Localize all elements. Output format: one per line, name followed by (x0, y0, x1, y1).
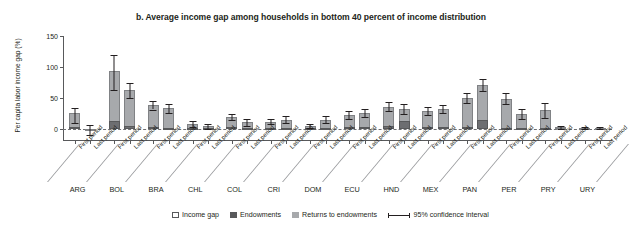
error-bar (404, 104, 405, 114)
error-bar-cap-top (228, 114, 235, 115)
y-tick-label: 150 (46, 33, 58, 40)
error-bar-cap-bottom (424, 115, 431, 116)
error-bar-cap-bottom (111, 90, 118, 91)
bar-group (124, 36, 135, 141)
bar-group (69, 36, 80, 141)
country-bracket (596, 144, 629, 182)
country-bracket (282, 144, 315, 182)
error-bar (325, 116, 326, 123)
country-label: PAN (463, 185, 477, 194)
country-bracket (400, 144, 433, 182)
x-tick-mark (247, 141, 248, 144)
x-tick-mark (310, 141, 311, 144)
country-bracket (518, 144, 551, 182)
error-bar-cap-top (283, 116, 290, 117)
y-tick-mark (60, 67, 63, 68)
country-bracket (47, 144, 80, 182)
x-tick-mark (545, 141, 546, 144)
error-bar-cap-bottom (228, 120, 235, 121)
country-label: CRI (267, 185, 280, 194)
country-label: URY (580, 185, 595, 194)
legend-swatch-endowments (230, 212, 237, 219)
error-bar-cap-top (401, 104, 408, 105)
x-tick-mark (326, 141, 327, 144)
error-bar-cap-bottom (150, 110, 157, 111)
error-bar-cap-top (557, 126, 564, 127)
error-bar-cap-bottom (542, 118, 549, 119)
bar-group (438, 36, 449, 141)
x-tick-mark (286, 141, 287, 144)
country-bracket (243, 144, 276, 182)
x-tick-mark (506, 141, 507, 144)
bar-segment-endowments (69, 127, 80, 129)
bar-group (595, 36, 606, 141)
x-tick-mark (193, 141, 194, 144)
x-tick-mark (428, 141, 429, 144)
country-bracket (125, 144, 158, 182)
legend-item-confidence-interval: 95% confidence interval (388, 211, 489, 219)
error-bar-cap-top (385, 102, 392, 103)
country-label: ECU (344, 185, 359, 194)
error-bar-cap-top (205, 124, 212, 125)
country-bracket (86, 144, 119, 182)
error-bar-cap-top (542, 103, 549, 104)
legend-label-returns: Returns to endowments (302, 211, 377, 219)
error-bar (114, 55, 115, 90)
error-bar-cap-top (322, 116, 329, 117)
error-bar (286, 116, 287, 123)
error-bar-cap-bottom (464, 103, 471, 104)
x-tick-mark (404, 141, 405, 144)
x-tick-mark (208, 141, 209, 144)
country-label: BOL (110, 185, 125, 194)
error-bar (168, 104, 169, 113)
x-tick-mark (443, 141, 444, 144)
error-bar-cap-top (111, 55, 118, 56)
legend-label-endowments: Endowments (240, 211, 281, 219)
x-tick-mark (600, 141, 601, 144)
x-tick-mark (169, 141, 170, 144)
y-axis-line (63, 36, 64, 141)
bar-group (399, 36, 410, 141)
error-bar-cap-bottom (503, 104, 510, 105)
error-bar (247, 119, 248, 126)
x-tick-mark (585, 141, 586, 144)
error-bar-cap-top (518, 109, 525, 110)
country-bracket (361, 144, 394, 182)
error-bar (506, 93, 507, 104)
error-bar-cap-bottom (361, 117, 368, 118)
error-bar-cap-bottom (165, 113, 172, 114)
error-bar (427, 107, 428, 115)
legend-item-income-gap: Income gap (172, 211, 219, 219)
error-bar-cap-top (346, 111, 353, 112)
legend-swatch-returns (292, 212, 299, 219)
x-tick-mark (130, 141, 131, 144)
country-bracket (165, 144, 198, 182)
error-bar (349, 111, 350, 120)
error-bar-cap-bottom (518, 119, 525, 120)
bar-group (359, 36, 370, 141)
x-tick-mark (349, 141, 350, 144)
country-label: DOM (304, 185, 321, 194)
error-bar (443, 105, 444, 113)
y-tick-mark (60, 129, 63, 130)
x-axis-labels-layer: First periodLast periodFirst periodLast … (63, 141, 612, 203)
error-bar (129, 83, 130, 98)
legend-label-income-gap: Income gap (182, 211, 219, 219)
x-tick-mark (522, 141, 523, 144)
country-bracket (322, 144, 355, 182)
x-tick-mark (153, 141, 154, 144)
legend-item-endowments: Endowments (230, 211, 281, 219)
x-tick-mark (271, 141, 272, 144)
error-bar (153, 101, 154, 109)
error-bar-cap-top (71, 108, 78, 109)
y-axis-title: Per capita labor income gap (%) (14, 26, 21, 146)
x-tick-mark (75, 141, 76, 144)
legend-item-returns: Returns to endowments (292, 211, 377, 219)
error-bar-cap-top (440, 105, 447, 106)
bar-group (320, 36, 331, 141)
error-bar (467, 93, 468, 103)
x-tick-mark (90, 141, 91, 144)
y-tick-mark (60, 98, 63, 99)
error-bar (545, 103, 546, 118)
